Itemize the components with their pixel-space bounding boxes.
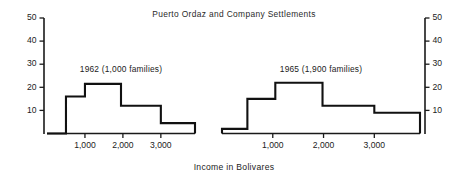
right-y-tick-label: 40 bbox=[433, 35, 443, 45]
left-y-tick-label: 20 bbox=[27, 82, 37, 92]
left-y-tick-label: 10 bbox=[27, 105, 37, 115]
right-y-tick-label: 50 bbox=[433, 12, 443, 22]
panel-1965: 1,0002,0003,0001965 (1,900 families) bbox=[222, 64, 420, 151]
x-tick-label: 2,000 bbox=[313, 140, 335, 150]
left-y-tick-label: 50 bbox=[27, 12, 37, 22]
x-tick-label: 2,000 bbox=[112, 140, 134, 150]
left-y-axis: 1020304050 bbox=[27, 12, 44, 134]
step-histogram-chart: Puerto Ordaz and Company Settlements 102… bbox=[0, 0, 469, 181]
x-tick-label: 3,000 bbox=[150, 140, 172, 150]
right-y-axis: 1020304050 bbox=[425, 12, 442, 134]
step-line-1962 bbox=[47, 84, 195, 134]
chart-title: Puerto Ordaz and Company Settlements bbox=[152, 9, 315, 19]
panel-label-1962: 1962 (1,000 families) bbox=[80, 64, 162, 74]
panel-1962: 1,0002,0003,0001962 (1,000 families) bbox=[47, 64, 195, 151]
left-y-tick-label: 40 bbox=[27, 35, 37, 45]
right-y-tick-label: 30 bbox=[433, 58, 443, 68]
step-line-1965 bbox=[222, 83, 420, 134]
panel-label-1965: 1965 (1,900 families) bbox=[280, 64, 362, 74]
right-y-tick-label: 20 bbox=[433, 82, 443, 92]
chart-canvas: Puerto Ordaz and Company Settlements 102… bbox=[0, 0, 469, 181]
x-axis-title: Income in Bolivares bbox=[194, 162, 275, 172]
x-tick-label: 3,000 bbox=[364, 140, 386, 150]
x-tick-label: 1,000 bbox=[74, 140, 96, 150]
x-tick-label: 1,000 bbox=[262, 140, 284, 150]
left-y-tick-label: 30 bbox=[27, 58, 37, 68]
right-y-tick-label: 10 bbox=[433, 105, 443, 115]
